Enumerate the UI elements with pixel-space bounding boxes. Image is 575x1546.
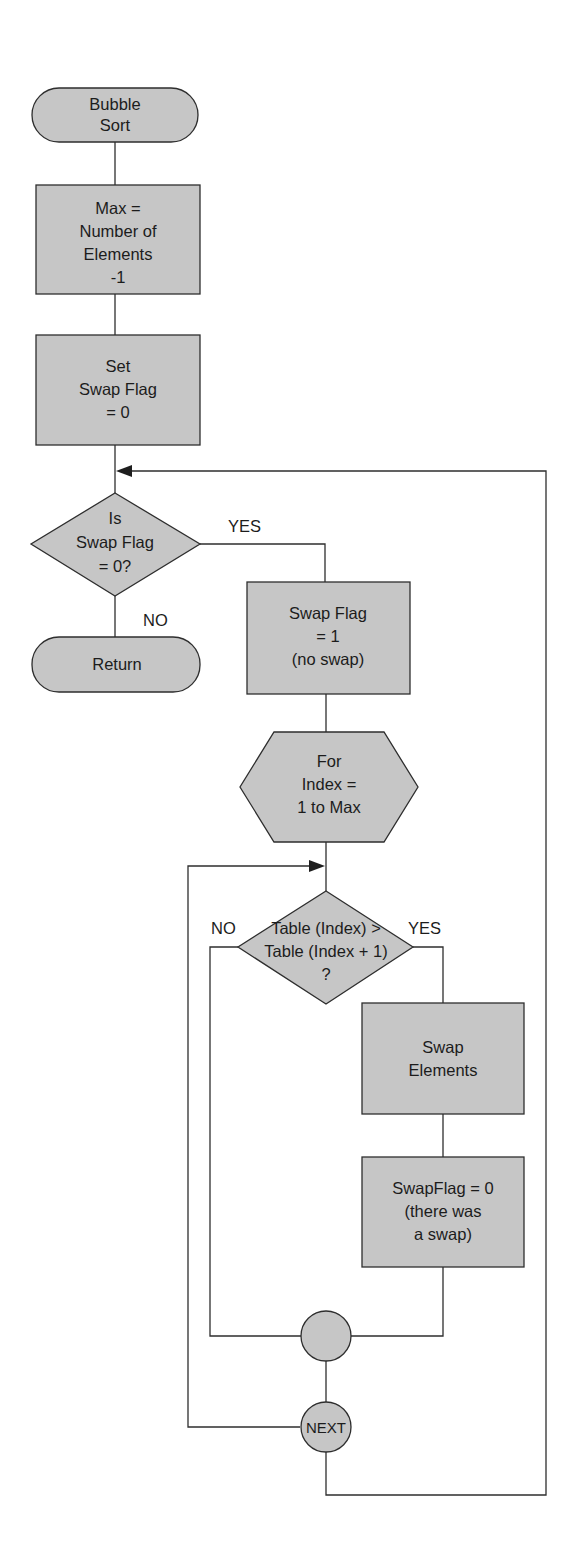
- start-label-line-2: Sort: [100, 116, 131, 134]
- check-flag-line-1: Is: [109, 509, 122, 527]
- join-connector: [301, 1311, 351, 1361]
- set-max-line-1: Max =: [95, 199, 140, 217]
- set-flag-line-3: = 0: [106, 403, 129, 421]
- flag-one-line-1: Swap Flag: [289, 604, 367, 622]
- loop-for-index: For Index = 1 to Max: [240, 732, 418, 842]
- set-flag-line-1: Set: [106, 357, 131, 375]
- flowchart: Bubble Sort Max = Number of Elements -1 …: [0, 0, 575, 1546]
- edge-label-compare-yes: YES: [408, 919, 441, 937]
- for-line-1: For: [317, 752, 342, 770]
- start-terminator: Bubble Sort: [32, 88, 198, 142]
- edge-label-compare-no: NO: [211, 919, 236, 937]
- process-swap-flag-zero: SwapFlag = 0 (there was a swap): [362, 1157, 524, 1267]
- edge-flagzero-to-join: [351, 1267, 443, 1336]
- compare-line-3: ?: [321, 965, 330, 983]
- swap-line-1: Swap: [422, 1038, 463, 1056]
- flag-zero-line-2: (there was: [404, 1202, 481, 1220]
- edge-check-yes: [200, 544, 325, 582]
- return-label: Return: [92, 655, 142, 673]
- set-max-line-4: -1: [111, 268, 126, 286]
- process-set-max: Max = Number of Elements -1: [36, 185, 200, 294]
- check-flag-line-3: = 0?: [99, 557, 132, 575]
- for-line-3: 1 to Max: [297, 798, 361, 816]
- set-max-line-3: Elements: [84, 245, 153, 263]
- edge-label-yes: YES: [228, 517, 261, 535]
- process-set-swap-flag: Set Swap Flag = 0: [36, 335, 200, 445]
- set-flag-line-2: Swap Flag: [79, 380, 157, 398]
- compare-line-1: Table (Index) >: [271, 919, 381, 937]
- check-flag-line-2: Swap Flag: [76, 533, 154, 551]
- set-max-line-2: Number of: [79, 222, 156, 240]
- next-connector: NEXT: [301, 1402, 351, 1452]
- next-label: NEXT: [306, 1419, 346, 1436]
- edge-label-no: NO: [143, 611, 168, 629]
- edge-compare-no: [210, 947, 301, 1336]
- arrowhead-right-icon: [309, 860, 325, 872]
- flag-one-line-2: = 1: [316, 627, 339, 645]
- flag-one-line-3: (no swap): [292, 650, 364, 668]
- return-terminator: Return: [32, 637, 200, 692]
- compare-line-2: Table (Index + 1): [264, 942, 387, 960]
- flag-zero-line-1: SwapFlag = 0: [392, 1179, 493, 1197]
- start-label-line-1: Bubble: [89, 95, 140, 113]
- edge-compare-yes: [413, 947, 443, 1003]
- flag-zero-line-3: a swap): [414, 1225, 472, 1243]
- for-line-2: Index =: [302, 775, 357, 793]
- swap-line-2: Elements: [409, 1061, 478, 1079]
- decision-compare-elements: Table (Index) > Table (Index + 1) ?: [238, 891, 413, 1004]
- decision-check-swap-flag: Is Swap Flag = 0?: [31, 493, 200, 596]
- arrowhead-left-icon: [116, 465, 132, 477]
- process-swap-flag-one: Swap Flag = 1 (no swap): [247, 582, 410, 694]
- process-swap-elements: Swap Elements: [362, 1003, 524, 1114]
